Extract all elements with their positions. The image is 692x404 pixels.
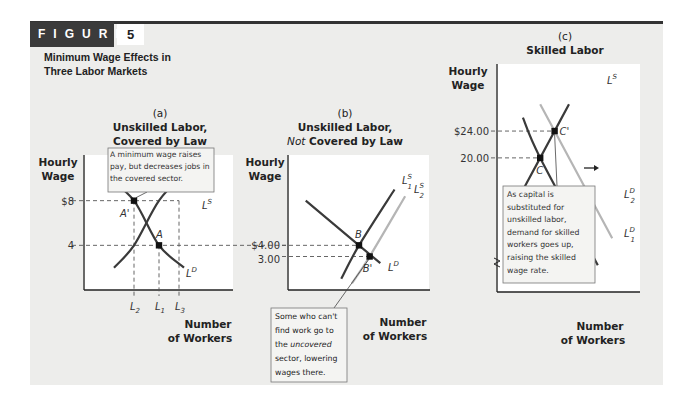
panel-a-point-A — [156, 242, 162, 248]
panel-a-annotation-text: A minimum wage raises pay, but decreases… — [110, 149, 214, 185]
panel-a-ylabel-line1: Hourly — [38, 156, 77, 168]
panel-b-title-line1: Unskilled Labor, — [298, 121, 392, 133]
panel-a-letter: (a) — [153, 107, 168, 119]
panel-b-annotation-line3: the uncovered — [275, 340, 332, 349]
panel-b-annotation-line1: Some who can't — [275, 312, 337, 321]
panel-a-title-line1: Unskilled Labor, — [113, 121, 207, 133]
panel-a-xtick-L2: L2 — [130, 301, 141, 315]
figure-svg: (a) Unskilled Labor, Covered by Law Hour… — [0, 0, 692, 404]
panel-a-title-line2: Covered by Law — [113, 135, 207, 147]
panel-b-ylabel-line2: Wage — [249, 170, 282, 182]
panel-a-ytick-4: 4 — [68, 240, 74, 251]
panel-b: (b) Unskilled Labor, Not Covered by Law … — [245, 107, 430, 382]
panel-b-ytick-4: $4.00 — [251, 240, 280, 251]
panel-a-point-label-A: A — [155, 229, 163, 240]
panel-a: (a) Unskilled Labor, Covered by Law Hour… — [38, 107, 290, 344]
panel-a-xtick-L3: L3 — [175, 301, 185, 315]
panel-b-annotation-line2: find work go to — [275, 326, 334, 335]
panel-b-xlabel-line2: of Workers — [363, 330, 427, 342]
panel-b-point-B — [356, 242, 362, 248]
panel-c-title-line1: Skilled Labor — [526, 44, 604, 56]
panel-c-letter: (c) — [558, 30, 572, 42]
panel-c-annotation-line: demand for skilled — [507, 228, 580, 237]
panel-a-point-label-A-prime: A' — [119, 208, 130, 219]
panel-c-annotation-line: workers goes up, — [507, 240, 574, 249]
panel-b-point-B-prime — [366, 253, 372, 259]
panel-c-annotation-line: As capital is — [507, 190, 554, 199]
panel-c-point-C-prime — [551, 128, 557, 134]
panel-b-title-line2: Not Covered by Law — [287, 135, 403, 147]
panel-b-title-rest: Covered by Law — [305, 135, 403, 147]
panel-b-letter: (b) — [338, 107, 353, 119]
panel-b-annotation-line4: sector, lowering — [275, 354, 338, 363]
panel-c-annotation-line: wage rate. — [507, 266, 549, 275]
panel-b-point-label-B: B — [355, 229, 362, 240]
panel-a-annotation: A minimum wage raises pay, but decreases… — [110, 149, 214, 193]
panel-c-ylabel-line2: Wage — [452, 79, 485, 91]
panel-c-ytick-24: $24.00 — [454, 126, 489, 137]
panel-b-title-italic: Not — [287, 135, 306, 147]
panel-c-ylabel-line1: Hourly — [448, 65, 487, 77]
panel-c-ytick-20: 20.00 — [460, 153, 489, 164]
panel-a-xlabel-line1: Number — [184, 318, 232, 330]
panel-b-ylabel-line1: Hourly — [245, 156, 284, 168]
panel-c-annotation-line: substituted for — [507, 203, 565, 212]
panel-a-ytick-8: $8 — [61, 196, 74, 207]
panel-c-annotation-line: raising the skilled — [507, 253, 576, 262]
panel-a-xlabel-line2: of Workers — [168, 332, 232, 344]
panel-b-point-label-B-prime: B' — [363, 263, 373, 274]
panel-c-point-label-C-prime: C' — [560, 126, 570, 137]
panel-c-point-label-C: C — [536, 165, 543, 176]
panel-c-annotation-line: unskilled labor, — [507, 215, 567, 224]
panel-a-ylabel-line2: Wage — [42, 170, 75, 182]
panel-b-annotation-line5: wages there. — [275, 368, 326, 377]
panel-b-annotation-line3-pre: the — [275, 340, 290, 349]
panel-b-xlabel-line1: Number — [379, 316, 427, 328]
panel-c: (c) Skilled Labor Hourly Wage Number of … — [448, 30, 640, 346]
panel-a-point-A-prime — [131, 197, 137, 203]
panel-b-annotation-line3-italic: uncovered — [290, 340, 331, 349]
panel-b-ytick-3: 3.00 — [258, 254, 280, 265]
panel-c-xlabel-line2: of Workers — [561, 334, 625, 346]
panel-c-point-C — [537, 155, 543, 161]
panel-c-xlabel-line1: Number — [576, 320, 624, 332]
panel-a-xtick-L1: L1 — [155, 301, 165, 315]
